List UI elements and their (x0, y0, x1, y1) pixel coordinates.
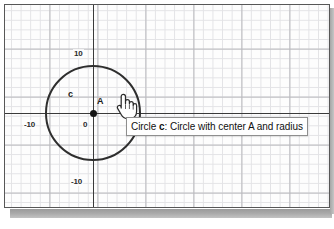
tooltip-text: Circle c: Circle with center A and radiu… (131, 121, 303, 133)
x-axis-tick-label-negative: -10 (23, 120, 36, 129)
tooltip-prefix: Circle (131, 121, 159, 132)
y-axis-tick-label-negative: -10 (70, 177, 83, 186)
object-tooltip: Circle c: Circle with center A and radiu… (126, 117, 308, 136)
circle-label-c[interactable]: c (68, 89, 73, 99)
tooltip-description: : Circle with center A and radius (165, 121, 303, 132)
y-axis-tick-label-positive: 10 (73, 49, 84, 58)
graphics-panel[interactable]: 10 -10 -10 0 c A Circle c: Circle with c… (4, 4, 330, 208)
point-label-a[interactable]: A (97, 96, 104, 106)
panel-shadow-right (330, 8, 334, 214)
graphics-view-app: 10 -10 -10 0 c A Circle c: Circle with c… (0, 0, 334, 229)
panel-shadow-bottom (10, 209, 332, 218)
center-point-a[interactable] (90, 110, 97, 117)
